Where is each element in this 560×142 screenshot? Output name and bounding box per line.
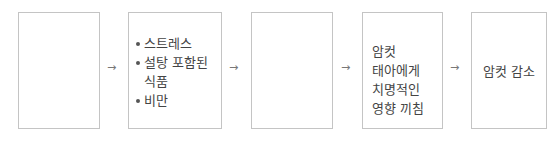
flow-box-3-empty	[251, 12, 333, 129]
causes-list: 스트레스 설탕 포함된 식품 비만	[136, 34, 221, 110]
flow-box-1-empty	[18, 12, 100, 129]
arrow-right-icon: →	[107, 62, 116, 74]
list-item: 스트레스	[136, 34, 221, 53]
arrow-right-icon: →	[229, 62, 238, 74]
bullet-icon	[136, 42, 140, 46]
arrow-right-icon: →	[341, 62, 350, 74]
flow-box-5-result: 암컷 감소	[471, 12, 547, 129]
bullet-icon	[136, 99, 140, 103]
arrow-right-icon: →	[450, 62, 459, 74]
list-item: 설탕 포함된 식품	[136, 53, 221, 91]
box-text: 암컷 감소	[472, 62, 546, 81]
bullet-icon	[136, 61, 140, 65]
flow-box-4-effect: 암컷 태아에게 치명적인 영향 끼침	[362, 12, 443, 129]
list-item: 비만	[136, 91, 221, 110]
box-text: 암컷 태아에게 치명적인 영향 끼침	[372, 42, 438, 118]
flow-box-2-causes: 스트레스 설탕 포함된 식품 비만	[128, 12, 222, 129]
